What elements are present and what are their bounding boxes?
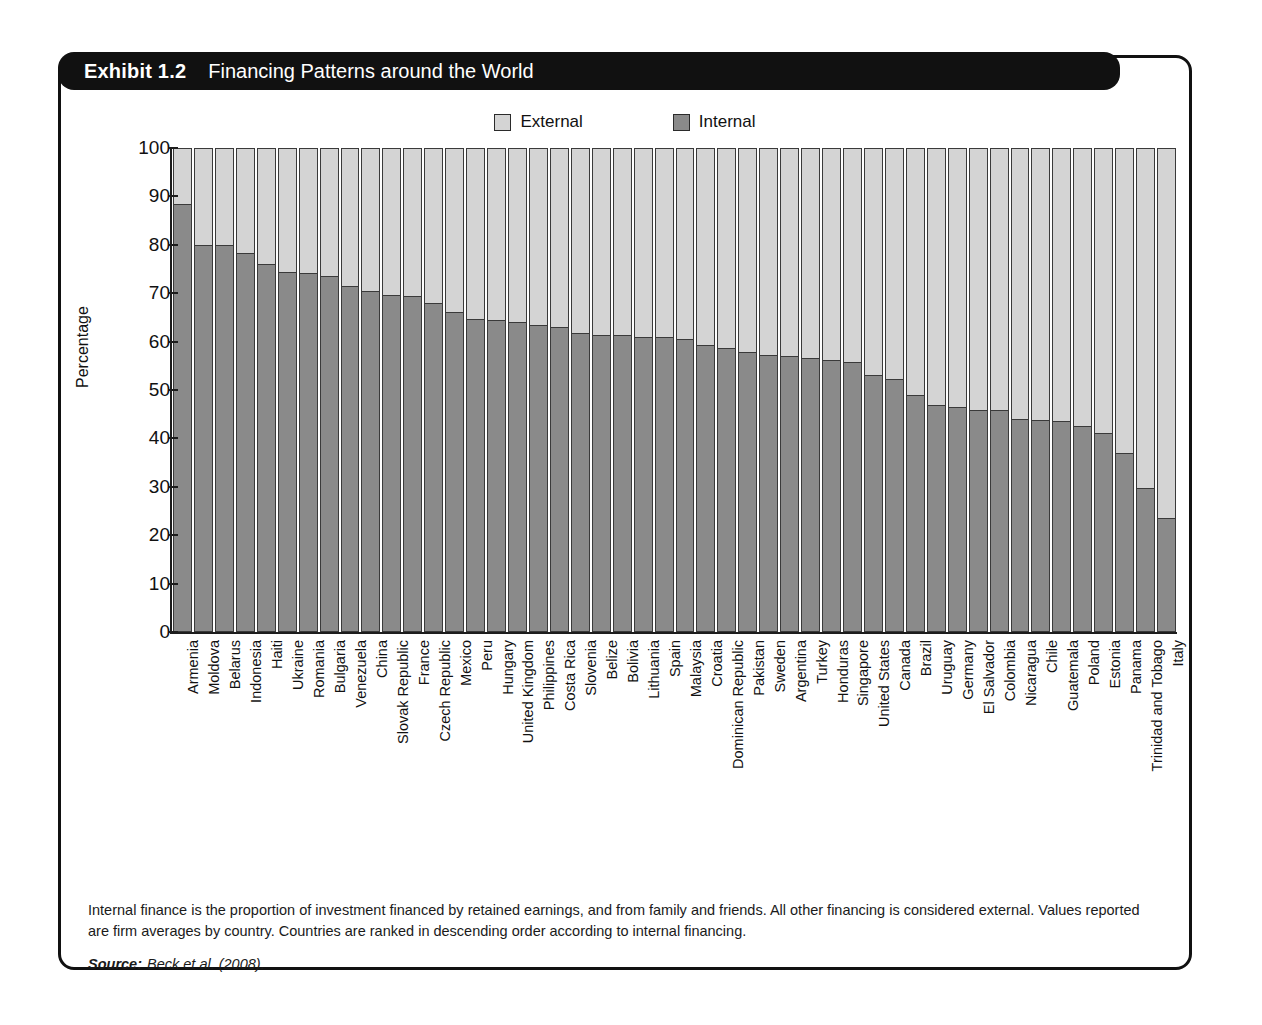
x-label-slot: China bbox=[358, 640, 379, 895]
bar-segment-external bbox=[634, 148, 653, 337]
bar-segment-external bbox=[1094, 148, 1113, 433]
x-label-slot: Venezuela bbox=[338, 640, 359, 895]
x-label-slot: Chile bbox=[1028, 640, 1049, 895]
bar-column bbox=[905, 148, 926, 632]
x-label-slot: Honduras bbox=[819, 640, 840, 895]
bar-segment-external bbox=[592, 148, 611, 335]
bar-segment-internal bbox=[1157, 518, 1176, 632]
bar-segment-external bbox=[403, 148, 422, 296]
x-label-slot: Belarus bbox=[212, 640, 233, 895]
legend-item-internal: Internal bbox=[673, 112, 756, 132]
bar-segment-external bbox=[1073, 148, 1092, 426]
bar-segment-external bbox=[1157, 148, 1176, 518]
bar-column bbox=[549, 148, 570, 632]
x-label-slot: El Salvador bbox=[966, 640, 987, 895]
bar-segment-internal bbox=[194, 245, 213, 632]
bar-segment-external bbox=[906, 148, 925, 395]
x-label-slot: Romania bbox=[296, 640, 317, 895]
bar-segment-external bbox=[424, 148, 443, 303]
plot-area: 0102030405060708090100 bbox=[170, 148, 1177, 634]
x-label-slot: Dominican Republic bbox=[714, 640, 735, 895]
legend-swatch-internal-icon bbox=[673, 114, 690, 131]
bar-segment-external bbox=[529, 148, 548, 325]
bar-segment-internal bbox=[1136, 488, 1155, 632]
bar-segment-internal bbox=[613, 335, 632, 632]
y-axis-tick-mark bbox=[169, 292, 178, 294]
y-axis-tick-mark bbox=[169, 583, 178, 585]
bar-segment-external bbox=[571, 148, 590, 333]
x-label-slot: Brazil bbox=[903, 640, 924, 895]
bar-segment-external bbox=[278, 148, 297, 272]
bar-segment-internal bbox=[927, 405, 946, 632]
bar-segment-external bbox=[759, 148, 778, 355]
y-axis-tick-label: 100 bbox=[110, 137, 170, 159]
bar-column bbox=[277, 148, 298, 632]
bar-segment-external bbox=[613, 148, 632, 335]
y-axis-tick-mark bbox=[169, 341, 178, 343]
y-axis-tick-mark bbox=[169, 389, 178, 391]
bar-column bbox=[193, 148, 214, 632]
bar-segment-external bbox=[215, 148, 234, 245]
bar-segment-external bbox=[194, 148, 213, 245]
bar-column bbox=[863, 148, 884, 632]
bar-column bbox=[256, 148, 277, 632]
x-label-slot: Estonia bbox=[1091, 640, 1112, 895]
y-axis-tick-mark bbox=[169, 631, 178, 633]
bar-segment-external bbox=[257, 148, 276, 264]
y-axis-tick-label: 30 bbox=[110, 476, 170, 498]
y-axis-title: Percentage bbox=[74, 306, 92, 388]
x-label-slot: Lithuania bbox=[631, 640, 652, 895]
bar-column bbox=[381, 148, 402, 632]
x-label-slot: United Kingdom bbox=[505, 640, 526, 895]
bar-column bbox=[675, 148, 696, 632]
bar-column bbox=[716, 148, 737, 632]
x-label-slot: Canada bbox=[882, 640, 903, 895]
bar-column bbox=[507, 148, 528, 632]
x-label-slot: United States bbox=[861, 640, 882, 895]
bar-column bbox=[298, 148, 319, 632]
bar-segment-internal bbox=[487, 320, 506, 632]
x-label-slot: Hungary bbox=[484, 640, 505, 895]
bar-segment-internal bbox=[341, 286, 360, 632]
x-label-slot: Armenia bbox=[170, 640, 191, 895]
bar-segment-external bbox=[550, 148, 569, 327]
exhibit-number: Exhibit 1.2 bbox=[84, 60, 186, 83]
bar-segment-external bbox=[885, 148, 904, 379]
y-axis-tick-label: 80 bbox=[110, 234, 170, 256]
x-label-slot: Bolivia bbox=[610, 640, 631, 895]
y-axis-tick-label: 90 bbox=[110, 185, 170, 207]
x-label-slot: Moldova bbox=[191, 640, 212, 895]
bar-column bbox=[423, 148, 444, 632]
source-label: Source: bbox=[88, 956, 142, 972]
x-label-slot: Philippines bbox=[526, 640, 547, 895]
x-label-slot: Costa Rica bbox=[547, 640, 568, 895]
bar-segment-external bbox=[382, 148, 401, 295]
x-label-slot: Colombia bbox=[987, 640, 1008, 895]
x-label-slot: Bulgaria bbox=[317, 640, 338, 895]
bar-segment-internal bbox=[885, 379, 904, 632]
x-label-slot: Nicaragua bbox=[1008, 640, 1029, 895]
bar-segment-external bbox=[822, 148, 841, 360]
bar-segment-external bbox=[717, 148, 736, 348]
x-label-slot: Sweden bbox=[756, 640, 777, 895]
x-label-slot: Spain bbox=[652, 640, 673, 895]
bar-segment-internal bbox=[1115, 453, 1134, 632]
bar-segment-internal bbox=[299, 273, 318, 632]
x-label-slot: Malaysia bbox=[673, 640, 694, 895]
bar-segment-internal bbox=[948, 407, 967, 632]
x-label-slot: Uruguay bbox=[924, 640, 945, 895]
bar-column bbox=[1093, 148, 1114, 632]
bar-segment-internal bbox=[634, 337, 653, 632]
bar-segment-internal bbox=[864, 375, 883, 632]
bar-column bbox=[779, 148, 800, 632]
bar-segment-internal bbox=[801, 358, 820, 632]
bar-segment-external bbox=[466, 148, 485, 319]
chart-legend: External Internal bbox=[58, 108, 1192, 136]
bar-segment-internal bbox=[990, 410, 1009, 632]
bar-segment-external bbox=[1052, 148, 1071, 420]
bar-segment-external bbox=[487, 148, 506, 320]
y-axis-tick-label: 20 bbox=[110, 524, 170, 546]
x-label-slot: Ukraine bbox=[275, 640, 296, 895]
bar-column bbox=[402, 148, 423, 632]
bar-segment-internal bbox=[843, 362, 862, 632]
